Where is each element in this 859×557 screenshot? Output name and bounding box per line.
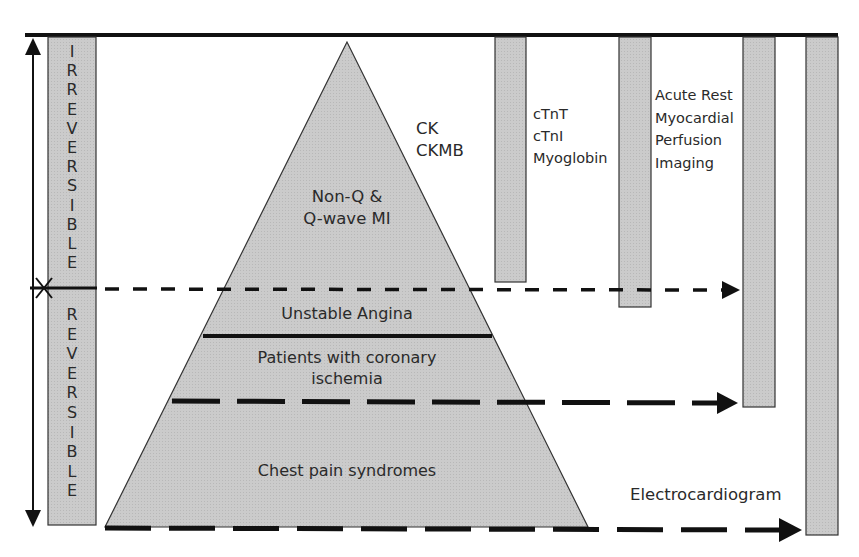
layer-mi-line2: Q-wave MI: [303, 209, 390, 228]
test-ck-line1: CK: [416, 119, 438, 138]
bar-troponin: [495, 37, 526, 282]
layer-mi-label: Non-Q & Q-wave MI: [262, 186, 432, 230]
irreversible-label: IRREVERSIBLE: [48, 42, 96, 272]
layer-ischemia-label: Patients with coronary ischemia: [212, 347, 482, 389]
bar-ecg: [806, 37, 838, 535]
bar-ischemia-test: [743, 37, 775, 407]
layer-chest-pain-label: Chest pain syndromes: [222, 460, 472, 481]
bar-mpi: [619, 37, 651, 307]
layer-unstable-angina-label: Unstable Angina: [232, 303, 462, 324]
test-mpi-label: Acute Rest Myocardial Perfusion Imaging: [655, 84, 734, 174]
test-troponin-line3: Myoglobin: [533, 150, 608, 166]
test-mpi-line1: Acute Rest: [655, 87, 733, 103]
irreversible-text: IRREVERSIBLE: [66, 42, 78, 272]
layer-mi-line1: Non-Q &: [312, 187, 383, 206]
test-mpi-line2: Myocardial: [655, 110, 734, 126]
test-troponin-label: cTnT cTnI Myoglobin: [533, 103, 608, 169]
test-ck-line2: CKMB: [416, 141, 464, 160]
layer-ischemia-line2: ischemia: [311, 369, 382, 388]
reversible-label: REVERSIBLE: [48, 305, 96, 501]
reversible-text: REVERSIBLE: [66, 305, 78, 501]
layer-ischemia-line1: Patients with coronary: [258, 348, 437, 367]
test-ck-label: CK CKMB: [416, 118, 464, 162]
test-troponin-line2: cTnI: [533, 128, 563, 144]
test-mpi-line4: Imaging: [655, 155, 714, 171]
test-ecg-label: Electrocardiogram: [630, 484, 782, 506]
test-troponin-line1: cTnT: [533, 106, 568, 122]
test-mpi-line3: Perfusion: [655, 132, 722, 148]
